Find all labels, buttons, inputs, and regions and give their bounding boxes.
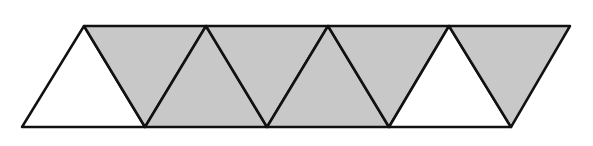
triangle-strip-diagram (0, 0, 593, 146)
